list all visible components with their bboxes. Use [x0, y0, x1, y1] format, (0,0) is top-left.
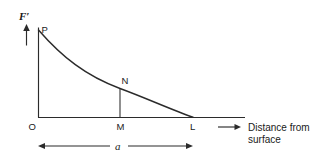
label-point-l: L: [190, 121, 195, 132]
x-axis-caption-line-1: Distance from: [248, 122, 310, 133]
x-axis-caption-line-2: surface: [248, 134, 281, 145]
label-point-m: M: [117, 121, 125, 132]
x-axis-caption-arrow: [218, 124, 241, 130]
label-point-n: N: [122, 75, 129, 86]
dimension-label-a: a: [115, 140, 121, 152]
y-axis-direction-arrow: [23, 24, 30, 46]
dimension-arrow-right: [128, 143, 193, 149]
dimension-arrow-left: [38, 143, 110, 149]
label-point-p: P: [42, 24, 48, 35]
figure-container: F′ P N O M L Distance from surface: [0, 0, 318, 161]
force-decay-curve: [39, 30, 194, 117]
y-axis-label: F′: [18, 10, 29, 22]
label-point-o: O: [29, 121, 36, 132]
force-distance-diagram: F′ P N O M L Distance from surface: [0, 0, 318, 161]
